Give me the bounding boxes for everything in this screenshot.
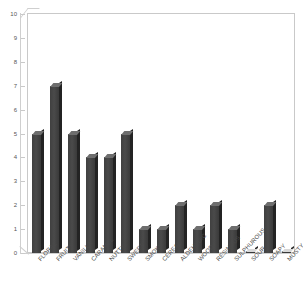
x-axis-labels: FLORALFRUITYVANILLACARAMELNUTTYSWEETSMOK… [28, 256, 295, 307]
bar-front-face [68, 134, 77, 254]
x-label-slot: CARAMEL [81, 256, 99, 307]
bar-side-face [184, 200, 187, 250]
bar-front-face [121, 134, 130, 254]
bar-front-face [32, 134, 41, 254]
y-axis-tick-mark [21, 157, 25, 158]
bar-side-face [219, 200, 222, 250]
plot-area [28, 14, 295, 253]
bar-side-face [113, 152, 116, 250]
y-axis-tick-label: 7 [14, 83, 17, 89]
bar-slot [153, 14, 171, 253]
y-axis-tick-label: 4 [14, 154, 17, 160]
y-axis-tick-mark [21, 181, 25, 182]
x-label-slot: CEREAL [153, 256, 171, 307]
bar-slot [135, 14, 153, 253]
y-axis-tick-label: 5 [14, 131, 17, 137]
x-label-slot: SWEET [117, 256, 135, 307]
y-axis-tick-label: 2 [14, 202, 17, 208]
bar-side-face [273, 200, 276, 250]
bar-slot [170, 14, 188, 253]
y-axis-tick-label: 6 [14, 107, 17, 113]
bar-slot [64, 14, 82, 253]
x-label-slot: VANILLA [64, 256, 82, 307]
bar-side-face [130, 128, 133, 250]
y-axis-tick-label: 0 [14, 250, 17, 256]
y-axis-tick-mark [21, 229, 25, 230]
bar-slot [99, 14, 117, 253]
y-axis-tick-mark [21, 14, 25, 15]
x-label-slot: SOAPY [259, 256, 277, 307]
bar-front-face [50, 86, 59, 253]
bar-series [28, 14, 295, 253]
bar[interactable] [50, 86, 59, 253]
y-axis-tick-mark [21, 38, 25, 39]
bar-slot [188, 14, 206, 253]
bar-side-face [77, 128, 80, 250]
y-axis: 109876543210 [0, 0, 27, 307]
y-axis-tick-mark [21, 253, 25, 254]
y-axis-tick-label: 3 [14, 178, 17, 184]
bar[interactable] [32, 134, 41, 254]
y-axis-tick-mark [21, 134, 25, 135]
bar-slot [224, 14, 242, 253]
y-axis-tick-mark [21, 205, 25, 206]
y-axis-tick-mark [21, 62, 25, 63]
y-axis-tick-mark [21, 86, 25, 87]
x-label-slot: WOODY [188, 256, 206, 307]
bar-chart: 109876543210 FLORALFRUITYVANILLACARAMELN… [0, 0, 303, 307]
y-axis-tick-label: 9 [14, 35, 17, 41]
x-label-slot: MUSTY [277, 256, 295, 307]
bar-side-face [41, 128, 44, 250]
x-label-slot: SMOKY [135, 256, 153, 307]
y-axis-tick-label: 8 [14, 59, 17, 65]
x-label-slot: FLORAL [28, 256, 46, 307]
bar[interactable] [68, 134, 77, 254]
bar-slot [206, 14, 224, 253]
bar-side-face [59, 81, 62, 250]
bar-slot [81, 14, 99, 253]
x-label-slot: RESINOUS [206, 256, 224, 307]
bar[interactable] [121, 134, 130, 254]
x-label-slot: ALDEHYDIC [170, 256, 188, 307]
y-axis-tick-label: 10 [10, 11, 17, 17]
x-label-slot: FRUITY [46, 256, 64, 307]
x-label-slot: NUTTY [99, 256, 117, 307]
x-label-slot: SOUR [242, 256, 260, 307]
bar-front-face [86, 157, 95, 253]
bar-slot [259, 14, 277, 253]
bar-slot [277, 14, 295, 253]
x-label-slot: SULPHUROUS [224, 256, 242, 307]
bar-slot [46, 14, 64, 253]
y-axis-tick-label: 1 [14, 226, 17, 232]
bar-side-face [95, 152, 98, 250]
bar[interactable] [86, 157, 95, 253]
bar-slot [28, 14, 46, 253]
y-axis-tick-mark [21, 110, 25, 111]
bar-slot [117, 14, 135, 253]
bar-slot [242, 14, 260, 253]
